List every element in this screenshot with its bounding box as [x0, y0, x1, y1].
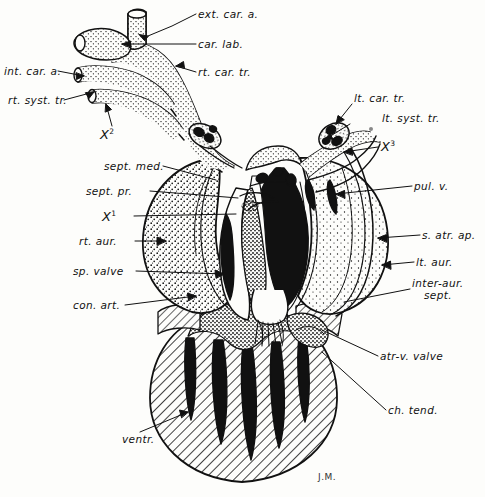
label-x2: X2: [100, 126, 114, 141]
label-lt-aur: lt. aur.: [416, 256, 453, 268]
label-sp-valve: sp. valve: [73, 265, 124, 277]
label-car-lab: car. lab.: [198, 38, 243, 50]
label-lt-syst-tr: lt. syst. tr.: [382, 112, 440, 124]
right-auricle: [143, 158, 234, 313]
label-ventr: ventr.: [122, 433, 155, 445]
label-ext-car-a: ext. car. a.: [198, 8, 258, 20]
label-pul-v: pul. v.: [414, 180, 448, 192]
label-int-car-a: int. car. a.: [4, 65, 61, 77]
label-inter-aur-sept: inter-aur.sept.: [412, 277, 478, 301]
label-lt-car-tr: lt. car. tr.: [354, 92, 406, 104]
anatomical-figure: ext. car. a. car. lab. rt. car. tr. int.…: [0, 0, 485, 497]
label-rt-syst-tr: rt. syst. tr.: [8, 94, 67, 106]
label-sept-pr: sept. pr.: [86, 185, 132, 197]
label-sept-med: sept. med.: [104, 160, 164, 172]
label-con-art: con. art.: [73, 299, 120, 311]
label-ch-tend: ch. tend.: [388, 404, 438, 416]
left-auricle: [296, 158, 388, 314]
label-s-atr-ap: s. atr. ap.: [422, 229, 476, 241]
label-rt-car-tr: rt. car. tr.: [198, 66, 251, 78]
right-arterial-trunks: [74, 9, 242, 172]
label-x1: X1: [102, 208, 116, 223]
artist-signature: J.M.: [318, 472, 336, 482]
label-rt-aur: rt. aur.: [79, 235, 117, 247]
label-x3: X3: [381, 138, 395, 153]
label-atr-v-valve: atr-v. valve: [380, 350, 443, 362]
